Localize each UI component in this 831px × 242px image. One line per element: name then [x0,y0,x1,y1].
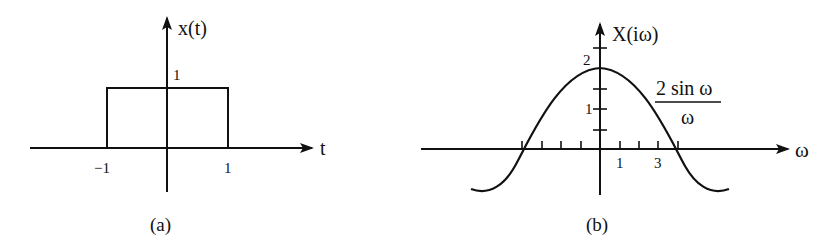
x-tick-label-1: 1 [224,160,232,176]
t-axis-label: t [320,137,326,159]
figure-canvas: x(t) t 1 −1 1 (a) X [0,0,831,242]
curve-label-denominator: ω [681,106,694,128]
X-axis-label: X(iω) [612,23,658,46]
curve-label-numerator: 2 sin ω [656,77,713,99]
panel-b: X(iω) ω 2 1 1 3 2 sin ω ω (b) [421,23,809,236]
y-tick-label-1: 1 [585,101,593,117]
xt-axis-label: x(t) [178,17,207,40]
omega-axis-label: ω [795,138,809,162]
panel-a: x(t) t 1 −1 1 (a) [30,17,326,236]
x-tick-label-3: 3 [654,155,662,171]
x-tick-label-1: 1 [616,155,624,171]
y-tick-label-1: 1 [173,67,181,83]
caption-b: (b) [586,214,608,236]
y-tick-label-2: 2 [583,52,591,68]
caption-a: (a) [150,214,171,236]
x-tick-label-neg1: −1 [94,160,110,176]
